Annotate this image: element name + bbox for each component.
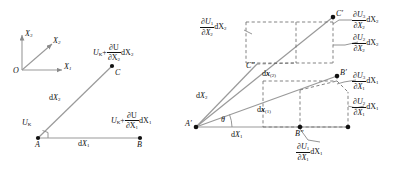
- axis-label-x2: X2: [53, 37, 60, 46]
- point-label-b-double-prime: B″: [295, 130, 303, 138]
- gradient-label-u3-x2: ∂U3∂X2dX2: [352, 10, 378, 30]
- vertex-a-prime-dot: [194, 125, 199, 130]
- point-label-a-prime: A′: [185, 120, 192, 128]
- upper-dashed-box: [246, 17, 333, 64]
- right-angle-path: [43, 131, 49, 139]
- theta-angle-arc: [230, 115, 233, 128]
- axis-label-origin: O: [13, 67, 19, 75]
- point-label-c-double-prime: C″: [246, 62, 255, 70]
- leader-grad-u1-x2: [244, 30, 252, 34]
- edge-label-dX2-right: dX2: [196, 92, 207, 101]
- edge-label-dx2-vector: dx(2): [262, 70, 276, 79]
- axis-label-x3: X3: [25, 30, 32, 39]
- edge-aprime-bprime-line: [196, 76, 337, 127]
- axis-label-x1: X1: [64, 63, 71, 72]
- gradient-label-u3-x1: ∂U3∂X1dX1: [352, 71, 378, 91]
- displacement-label-at-b: UK+∂U∂X1dX1: [111, 111, 151, 131]
- lower-dashed-box: [263, 76, 348, 127]
- deformation-diagram: X3 X2 X1 O A B C dX1 dX2 UK UK+∂U∂X2dX2 …: [0, 0, 398, 174]
- right-angle-marker-a: [43, 131, 49, 139]
- gradient-label-u1-x1: ∂U1∂X1dX1: [296, 142, 322, 162]
- point-label-c-prime: C′: [336, 10, 343, 18]
- point-label-b-prime: B′: [340, 69, 347, 77]
- axis-x2-line: [22, 44, 52, 70]
- leader-grad-u3-x2: [333, 20, 352, 24]
- point-label-c: C: [115, 69, 120, 77]
- edge-label-dX1-right: dX1: [231, 131, 242, 140]
- edge-label-dX2-left: dX2: [49, 94, 60, 103]
- gradient-label-u2-x1: ∂U2∂X1dX1: [352, 97, 378, 117]
- vertex-c-dot: [110, 64, 114, 68]
- point-label-a: A: [35, 141, 40, 149]
- vertex-corner-dot: [346, 125, 351, 130]
- gradient-label-u2-x2: ∂U2∂X2dX2: [352, 33, 378, 53]
- diagram-canvas: [0, 0, 398, 174]
- angle-label-theta: θ: [221, 116, 225, 124]
- edge-label-dX1-left: dX1: [78, 140, 89, 149]
- point-label-b: B: [137, 141, 142, 149]
- vertex-c-prime-dot: [331, 15, 336, 20]
- edge-label-dx1-vector: dx(1): [257, 106, 271, 115]
- gradient-label-u1-x2: ∂U1∂X2dX2: [200, 17, 226, 37]
- displacement-label-at-c: UK+∂U∂X2dX2: [93, 43, 133, 63]
- vertex-b-prime-dot: [335, 74, 340, 79]
- theta-arc-path: [230, 115, 233, 128]
- displacement-label-uk: UK: [22, 119, 31, 128]
